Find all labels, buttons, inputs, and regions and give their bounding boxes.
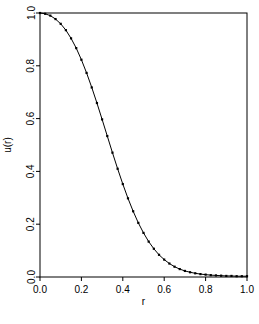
data-point-marker — [122, 183, 124, 185]
data-point-marker — [215, 274, 217, 276]
y-tick-label: 0.6 — [26, 111, 37, 125]
data-point-marker — [127, 197, 129, 199]
data-point-marker — [117, 168, 119, 170]
data-point-marker — [65, 29, 67, 31]
data-point-marker — [230, 275, 232, 277]
x-tick-label: 1.0 — [240, 284, 254, 295]
data-point-marker — [184, 270, 186, 272]
data-point-marker — [101, 118, 103, 120]
data-point-marker — [158, 254, 160, 256]
data-point-marker — [70, 37, 72, 39]
x-tick-label: 0.4 — [116, 284, 130, 295]
x-tick-label: 0.8 — [199, 284, 213, 295]
x-tick-label: 0.0 — [33, 284, 47, 295]
data-point-marker — [163, 258, 165, 260]
data-point-marker — [225, 275, 227, 277]
data-point-marker — [85, 72, 87, 74]
data-point-marker — [148, 241, 150, 243]
data-point-marker — [153, 248, 155, 250]
data-point-marker — [220, 275, 222, 277]
data-point-marker — [44, 13, 46, 15]
data-point-marker — [199, 273, 201, 275]
y-tick-label: 0.4 — [26, 164, 37, 178]
figure-container: 0.00.20.40.60.81.0 0.00.20.40.60.81.0 r … — [0, 0, 259, 324]
data-point-marker — [236, 275, 238, 277]
y-tick-label: 1.0 — [26, 6, 37, 20]
data-point-marker — [111, 152, 113, 154]
data-point-marker — [142, 232, 144, 234]
data-point-marker — [194, 272, 196, 274]
y-tick-label: 0.0 — [26, 270, 37, 284]
data-point-marker — [49, 15, 51, 17]
data-point-marker — [241, 275, 243, 277]
data-point-marker — [189, 271, 191, 273]
data-point-marker — [60, 23, 62, 25]
plot-canvas: 0.00.20.40.60.81.0 0.00.20.40.60.81.0 r … — [0, 0, 259, 324]
y-tick-label: 0.2 — [26, 217, 37, 231]
y-tick-label: 0.8 — [26, 58, 37, 72]
data-point-marker — [54, 18, 56, 20]
data-point-marker — [173, 266, 175, 268]
x-tick-label: 0.2 — [74, 284, 88, 295]
data-point-marker — [91, 86, 93, 88]
data-point-marker — [137, 222, 139, 224]
data-point-marker — [80, 59, 82, 61]
data-point-marker — [39, 12, 41, 14]
data-point-marker — [179, 268, 181, 270]
data-point-marker — [75, 47, 77, 49]
y-axis-label: u(r) — [2, 137, 13, 153]
data-point-marker — [106, 135, 108, 137]
data-point-marker — [96, 102, 98, 104]
data-point-marker — [205, 274, 207, 276]
x-tick-label: 0.6 — [157, 284, 171, 295]
data-point-marker — [246, 275, 248, 277]
data-point-marker — [168, 262, 170, 264]
data-point-marker — [132, 210, 134, 212]
data-point-marker — [210, 274, 212, 276]
